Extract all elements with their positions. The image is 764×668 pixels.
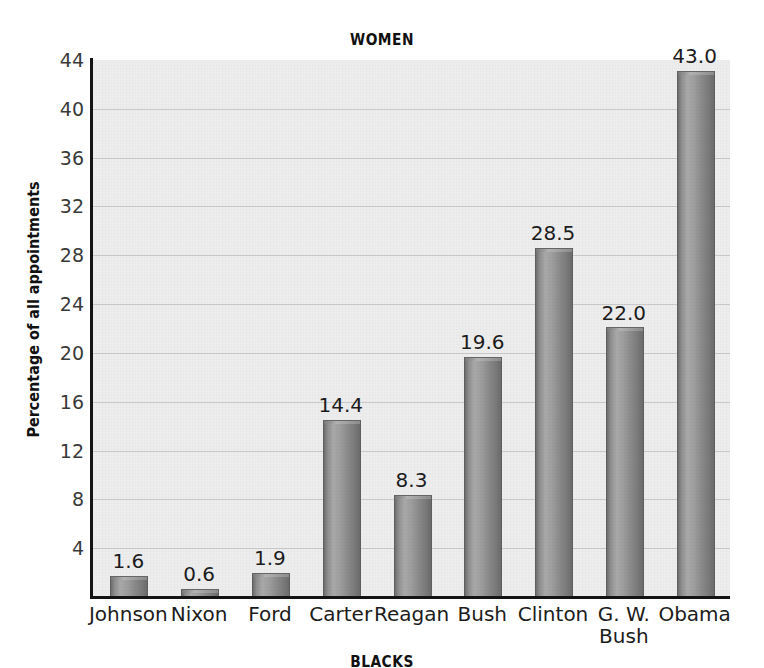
gridline	[93, 158, 730, 159]
y-axis-tick-label: 40	[38, 100, 84, 119]
bar-top-highlight	[324, 421, 360, 424]
y-axis-line	[90, 58, 93, 599]
bar-value-label: 1.9	[225, 548, 315, 568]
bar	[535, 248, 573, 597]
gridline	[93, 206, 730, 207]
y-axis-tick-label: 20	[38, 344, 84, 363]
bar-top-highlight	[678, 72, 714, 75]
y-axis-tick-label: 8	[38, 490, 84, 509]
y-axis-tick-label: 28	[38, 246, 84, 265]
bar	[677, 71, 715, 597]
bar	[110, 576, 148, 597]
x-axis-line	[90, 596, 730, 599]
bar-top-highlight	[465, 358, 501, 361]
chart-title: WOMEN	[53, 30, 710, 49]
bar-value-label: 28.5	[508, 223, 598, 243]
bar	[252, 573, 290, 597]
figure: WOMEN Percentage of all appointments 481…	[0, 0, 764, 668]
bar-value-label: 22.0	[579, 303, 669, 323]
y-axis-tick-label: 44	[38, 51, 84, 70]
bar-top-highlight	[182, 590, 218, 593]
bar-top-highlight	[536, 249, 572, 252]
x-axis-tick-label: Obama	[647, 604, 743, 626]
bar-value-label: 43.0	[650, 46, 740, 66]
y-axis-tick-label: 16	[38, 393, 84, 412]
bar-top-highlight	[111, 577, 147, 580]
bar-top-highlight	[395, 496, 431, 499]
bar-value-label: 8.3	[367, 470, 457, 490]
bottom-caption: BLACKS	[53, 652, 710, 668]
y-axis-tick-label: 32	[38, 197, 84, 216]
bar-value-label: 14.4	[296, 395, 386, 415]
bar	[464, 357, 502, 597]
gridline	[93, 255, 730, 256]
y-axis-tick-label: 4	[38, 539, 84, 558]
bar	[394, 495, 432, 597]
plot-area	[93, 60, 730, 597]
bar	[323, 420, 361, 597]
bar-top-highlight	[607, 328, 643, 331]
y-axis-tick-labels: 48121620242832364044	[30, 0, 84, 668]
y-axis-tick-label: 36	[38, 149, 84, 168]
gridline	[93, 109, 730, 110]
y-axis-tick-label: 12	[38, 442, 84, 461]
bar	[606, 327, 644, 597]
bar-top-highlight	[253, 574, 289, 577]
y-axis-tick-label: 24	[38, 295, 84, 314]
bar-value-label: 19.6	[437, 332, 527, 352]
